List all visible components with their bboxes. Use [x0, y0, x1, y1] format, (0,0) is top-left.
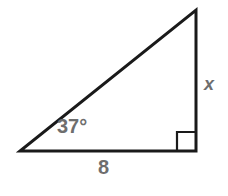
triangle-outline: [20, 10, 196, 151]
height-variable-label-x: x: [204, 75, 214, 93]
triangle-figure: 37° 8 x: [0, 0, 228, 196]
base-length-label-8: 8: [98, 157, 109, 177]
angle-label-37-degrees: 37°: [57, 116, 87, 136]
triangle-drawing: [0, 0, 228, 196]
